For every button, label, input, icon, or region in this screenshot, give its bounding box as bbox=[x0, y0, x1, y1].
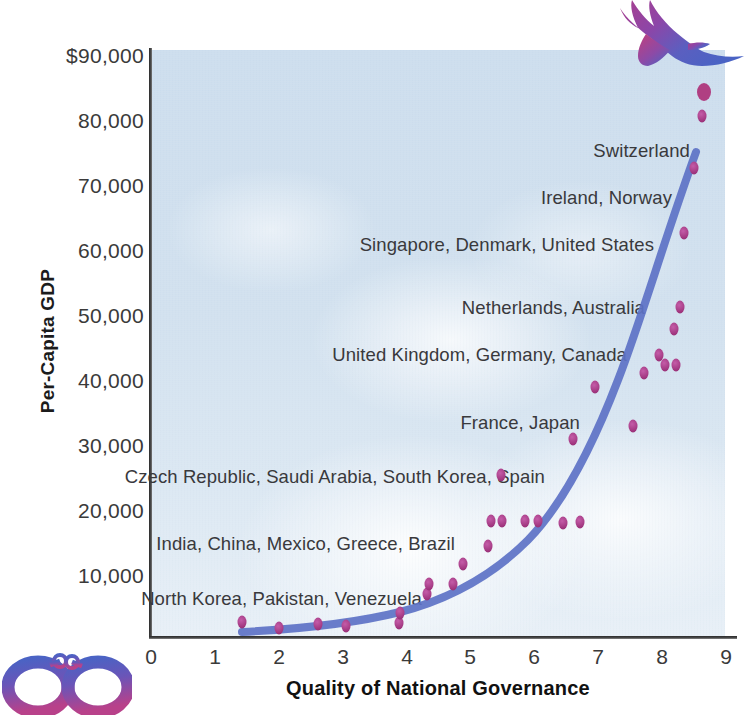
data-point bbox=[568, 433, 577, 446]
x-tick-label: 0 bbox=[145, 645, 157, 669]
data-point bbox=[690, 161, 699, 174]
x-tick-label: 2 bbox=[273, 645, 285, 669]
y-tick-label: 70,000 bbox=[40, 174, 144, 198]
country-label: France, Japan bbox=[460, 412, 580, 434]
data-point bbox=[396, 606, 405, 619]
y-tick-label: 10,000 bbox=[40, 564, 144, 588]
data-point bbox=[424, 578, 433, 591]
data-point bbox=[533, 515, 542, 528]
data-point bbox=[498, 515, 507, 528]
y-axis-title: Per-Capita GDP bbox=[37, 246, 59, 436]
data-point bbox=[676, 300, 685, 313]
x-tick-label: 8 bbox=[656, 645, 668, 669]
x-tick-label: 6 bbox=[528, 645, 540, 669]
data-point bbox=[237, 615, 246, 628]
data-point bbox=[484, 539, 493, 552]
data-point bbox=[576, 516, 585, 529]
x-tick-label: 5 bbox=[464, 645, 476, 669]
data-point bbox=[661, 358, 670, 371]
x-tick-label: 3 bbox=[337, 645, 349, 669]
x-tick-label: 4 bbox=[401, 645, 413, 669]
data-point bbox=[341, 619, 350, 632]
country-label: Singapore, Denmark, United States bbox=[360, 234, 654, 256]
data-point bbox=[448, 578, 457, 591]
x-axis-line bbox=[149, 636, 737, 639]
country-label: Switzerland bbox=[593, 140, 690, 162]
y-axis-line bbox=[149, 48, 152, 638]
y-tick-label: 80,000 bbox=[40, 109, 144, 133]
x-tick-label: 1 bbox=[209, 645, 221, 669]
data-point bbox=[458, 557, 467, 570]
data-point bbox=[274, 621, 283, 634]
y-tick-label: 30,000 bbox=[40, 434, 144, 458]
x-tick-label: 7 bbox=[592, 645, 604, 669]
y-tick-label: 20,000 bbox=[40, 499, 144, 523]
data-point bbox=[314, 617, 323, 630]
data-point bbox=[669, 323, 678, 336]
data-point bbox=[486, 515, 495, 528]
data-point bbox=[559, 517, 568, 530]
country-label: India, China, Mexico, Greece, Brazil bbox=[156, 533, 455, 555]
country-label: North Korea, Pakistan, Venezuela bbox=[141, 588, 422, 610]
data-point bbox=[697, 110, 706, 123]
x-axis-title: Quality of National Governance bbox=[151, 677, 725, 700]
country-label: Netherlands, Australia bbox=[462, 297, 645, 319]
chart-figure: $90,000 80,000 70,000 60,000 50,000 40,0… bbox=[0, 0, 747, 717]
data-point bbox=[520, 515, 529, 528]
country-label: United Kingdom, Germany, Canada bbox=[332, 344, 627, 366]
data-point bbox=[591, 381, 600, 394]
data-point bbox=[629, 420, 638, 433]
data-point bbox=[672, 358, 681, 371]
country-label: Czech Republic, Saudi Arabia, South Kore… bbox=[125, 466, 545, 488]
data-point bbox=[497, 468, 506, 481]
country-label: Ireland, Norway bbox=[541, 187, 672, 209]
x-tick-label: 9 bbox=[720, 645, 732, 669]
data-point bbox=[640, 366, 649, 379]
y-tick-label: $90,000 bbox=[40, 44, 144, 68]
data-point bbox=[680, 226, 689, 239]
